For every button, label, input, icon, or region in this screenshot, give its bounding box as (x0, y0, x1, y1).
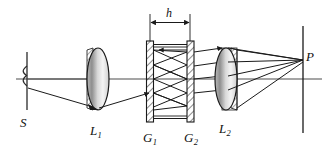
label-source-S: S (20, 116, 27, 129)
lens-L1 (87, 48, 109, 110)
etalon-plate-G1 (147, 41, 154, 122)
label-gap-h: h (166, 7, 172, 19)
label-plate-G1-sub: 1 (153, 137, 157, 147)
internal-reflection-rays (154, 50, 188, 110)
source-slit (23, 52, 27, 110)
label-lens-L2-text: L (219, 121, 226, 136)
optical-diagram (0, 0, 333, 154)
label-plate-G2-text: G (184, 130, 193, 145)
label-lens-L2-sub: 2 (227, 128, 231, 138)
label-screen-P-text: P (306, 49, 314, 64)
label-lens-L1: L1 (90, 124, 101, 137)
label-source-S-text: S (20, 115, 27, 130)
label-plate-G1-text: G (143, 130, 152, 145)
figure-canvas: S L1 G1 G2 L2 P h (0, 0, 333, 154)
lens-L2 (215, 48, 237, 110)
label-plate-G1: G1 (143, 131, 157, 144)
label-gap-h-text: h (166, 6, 172, 20)
label-plate-G2-sub: 2 (194, 137, 198, 147)
ray-source-to-lens1 (27, 79, 95, 107)
label-lens-L1-sub: 1 (98, 130, 102, 140)
etalon-plate-G2 (187, 41, 194, 122)
label-plate-G2: G2 (184, 131, 198, 144)
label-lens-L1-text: L (90, 123, 97, 138)
converging-rays-to-screen (228, 48, 303, 108)
label-screen-P: P (306, 50, 314, 63)
label-lens-L2: L2 (219, 122, 230, 135)
